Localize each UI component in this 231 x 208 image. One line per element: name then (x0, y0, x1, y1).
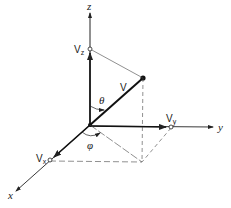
phi-label: φ (87, 139, 93, 151)
origin-projection-line (90, 125, 142, 162)
y-axis-label: y (217, 121, 223, 133)
vy-label: Vy (166, 113, 177, 126)
vector-v-label: V (120, 82, 127, 93)
vy-point (169, 125, 173, 129)
vy-component-arrow (90, 126, 166, 127)
vector-v (90, 78, 143, 125)
theta-label: θ (99, 94, 105, 106)
x-axis-label: x (7, 189, 13, 201)
vz-label: Vz (74, 44, 85, 56)
vx-component-arrow (54, 125, 90, 157)
theta-arc (90, 106, 104, 110)
vx-label: Vx (36, 153, 47, 165)
vz-point (88, 47, 92, 51)
vector-diagram: z y x V Vz Vy Vx θ φ (0, 0, 231, 208)
vz-to-tip-line (90, 49, 143, 78)
vx-projection-dashed (50, 161, 142, 162)
vx-point (48, 158, 52, 162)
vy-projection-dashed (142, 128, 171, 162)
tip-projection-dashed (142, 78, 143, 162)
phi-arc (82, 132, 100, 136)
z-axis-label: z (86, 0, 92, 12)
